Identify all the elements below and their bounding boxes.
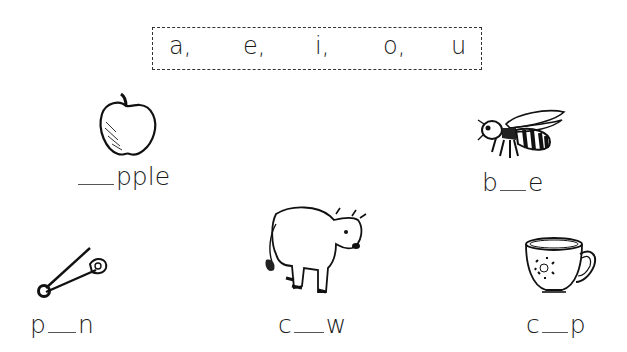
vowel-u: u [451,32,466,60]
answer-blank[interactable] [500,189,526,191]
answer-blank[interactable] [294,331,324,333]
bee-icon [476,106,566,162]
vowel-i: i, [315,32,329,60]
answer-blank[interactable] [542,331,568,333]
word-apple: pple [76,162,170,191]
word-cow: cw [278,310,346,339]
vowel-o: o, [383,32,405,60]
word-cup: cp [526,310,586,339]
vowel-e: e, [243,32,265,60]
vowel-a: a, [169,32,191,60]
safety-pin-icon [34,244,110,300]
word-pin: pn [30,310,94,339]
cow-icon [262,204,370,300]
answer-blank[interactable] [48,331,76,333]
answer-blank[interactable] [78,183,114,185]
vowel-box: a, e, i, o, u [152,27,482,70]
cup-icon [524,236,600,298]
apple-icon [96,92,162,160]
word-bee: be [482,168,543,197]
